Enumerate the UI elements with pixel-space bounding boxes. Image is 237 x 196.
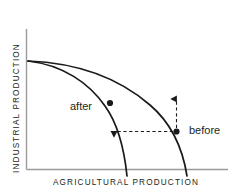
marker-before-point <box>173 128 179 134</box>
ppf-chart-figure: INDUSTRIAL PRODUCTION AGRICULTURAL PRODU… <box>0 0 237 196</box>
curve-after <box>28 61 127 176</box>
curve-before <box>28 61 187 176</box>
marker-after-point <box>107 100 113 106</box>
chart-plot-area <box>0 0 237 196</box>
x-axis-title: AGRICULTURAL PRODUCTION <box>26 178 226 187</box>
curve-label-before: before <box>189 124 220 136</box>
curve-label-after: after <box>70 100 92 112</box>
y-axis-title: INDUSTRIAL PRODUCTION <box>8 38 24 178</box>
